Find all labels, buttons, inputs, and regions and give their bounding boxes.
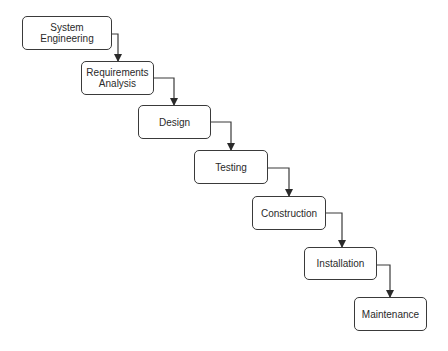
stage-label: Design [159, 117, 190, 128]
stage-design: Design [138, 105, 211, 139]
waterfall-diagram: System Engineering Requirements Analysis… [0, 0, 448, 351]
stage-label: Construction [261, 208, 317, 219]
stage-requirements-analysis: Requirements Analysis [81, 61, 154, 95]
stage-label-line: Analysis [86, 78, 148, 89]
stage-label-line: Requirements [86, 67, 148, 78]
stage-construction: Construction [252, 196, 326, 230]
arrow-requirements-to-design [154, 78, 174, 105]
stage-label-line: System [40, 22, 93, 33]
arrow-testing-to-construction [268, 168, 289, 196]
stage-installation: Installation [304, 247, 377, 280]
stage-testing: Testing [194, 150, 268, 184]
stage-label: Installation [317, 258, 365, 269]
arrow-design-to-testing [211, 122, 231, 150]
stage-label: Testing [215, 162, 247, 173]
stage-maintenance: Maintenance [354, 297, 427, 331]
stage-label-line: Engineering [40, 33, 93, 44]
stage-system-engineering: System Engineering [22, 16, 112, 50]
stage-label: Maintenance [362, 309, 419, 320]
